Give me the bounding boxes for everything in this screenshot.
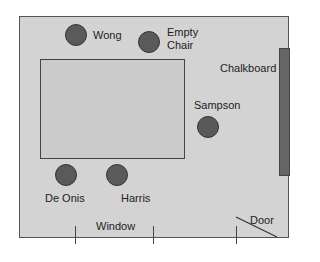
- chair-label-empty-2: Chair: [167, 39, 193, 51]
- chair-empty: [138, 31, 160, 53]
- chalkboard: [279, 48, 290, 176]
- window-edge-left: [75, 226, 76, 244]
- chair-label-wong: Wong: [93, 29, 122, 41]
- chair-label-de-onis: De Onis: [45, 192, 85, 204]
- chair-wong: [65, 24, 87, 46]
- door-swing: [230, 215, 290, 241]
- window-edge-right: [153, 226, 154, 244]
- chair-harris: [106, 164, 128, 186]
- window-label: Window: [96, 220, 135, 232]
- chair-label-sampson: Sampson: [194, 99, 240, 111]
- chair-label-harris: Harris: [121, 192, 150, 204]
- chair-de-onis: [55, 164, 77, 186]
- chalkboard-label: Chalkboard: [220, 62, 276, 74]
- chair-sampson: [197, 116, 219, 138]
- chair-label-empty-1: Empty: [167, 26, 198, 38]
- table: [40, 59, 185, 159]
